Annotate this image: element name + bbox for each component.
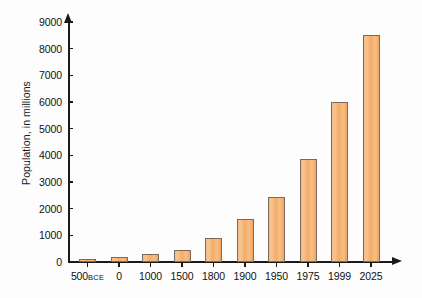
bar — [79, 259, 96, 262]
bar — [142, 254, 159, 262]
y-axis-tick-label: 4000 — [20, 148, 62, 162]
x-axis-tick-mark — [87, 262, 89, 267]
y-axis-tick-label: 7000 — [20, 68, 62, 82]
x-axis-tick-mark — [370, 262, 372, 267]
y-axis-tick-label: 5000 — [20, 122, 62, 136]
bar — [237, 219, 254, 262]
y-axis-tick-label: 3000 — [20, 175, 62, 189]
x-axis-tick-mark — [339, 262, 341, 267]
x-axis-tick-label: 2025 — [347, 270, 395, 283]
x-axis-tick-mark — [244, 262, 246, 267]
bar — [300, 159, 317, 262]
bars-layer — [68, 22, 394, 262]
y-axis-tick-label: 2000 — [20, 202, 62, 216]
x-axis-tick-mark — [150, 262, 152, 267]
x-axis-tick-mark — [213, 262, 215, 267]
y-axis-tick-label: 9000 — [20, 15, 62, 29]
population-bar-chart: Population, in millions 0100020003000400… — [0, 0, 422, 298]
x-axis-tick-mark — [181, 262, 183, 267]
y-axis-tick-label: 0 — [20, 255, 62, 269]
y-axis-tick-label: 6000 — [20, 95, 62, 109]
y-axis-tick-label: 1000 — [20, 228, 62, 242]
x-axis-tick-mark — [307, 262, 309, 267]
x-axis-tick-mark — [118, 262, 120, 267]
y-axis-tick-label: 8000 — [20, 42, 62, 56]
bar — [331, 102, 348, 262]
bar — [111, 257, 128, 262]
bar — [363, 35, 380, 262]
bar — [205, 238, 222, 262]
bar — [174, 250, 191, 262]
x-axis-tick-mark — [276, 262, 278, 267]
bar — [268, 197, 285, 262]
